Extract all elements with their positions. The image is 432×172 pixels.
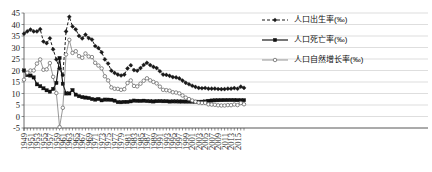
data-point — [129, 100, 132, 103]
x-axis: 1949195119531955195719591961196319651967… — [19, 128, 428, 150]
plot-series — [22, 15, 246, 129]
y-tick-label: 5 — [16, 100, 20, 110]
data-point — [74, 49, 78, 53]
series-line — [24, 58, 244, 102]
data-point — [145, 99, 148, 102]
data-point — [184, 100, 187, 103]
y-tick-label: 45 — [12, 8, 21, 18]
data-point — [207, 99, 210, 102]
data-point — [116, 100, 119, 103]
data-point — [55, 91, 59, 95]
y-tick-label: 10 — [12, 89, 21, 99]
data-point — [164, 73, 168, 77]
data-point — [64, 92, 67, 95]
data-point — [203, 86, 207, 90]
y-tick-label: 20 — [12, 66, 21, 76]
data-point — [32, 76, 35, 79]
data-point — [126, 100, 129, 103]
data-point — [48, 61, 52, 65]
y-tick-label: 25 — [12, 54, 21, 64]
data-point — [68, 92, 71, 95]
data-point — [242, 103, 246, 107]
data-point — [51, 47, 55, 51]
data-point — [100, 99, 103, 102]
data-point — [29, 74, 32, 77]
data-point — [142, 99, 145, 102]
data-point — [123, 87, 127, 91]
data-point — [106, 79, 110, 83]
data-point — [81, 95, 84, 98]
data-point — [148, 100, 151, 103]
data-point — [103, 98, 106, 101]
data-point — [113, 99, 116, 102]
data-point — [165, 100, 168, 103]
data-point — [84, 52, 88, 56]
data-point — [236, 103, 240, 107]
data-point — [242, 98, 245, 101]
data-point — [213, 99, 216, 102]
data-point — [90, 97, 93, 100]
data-point — [80, 56, 84, 60]
legend-label: 人口死亡率(‰) — [294, 34, 348, 44]
data-point — [110, 98, 113, 101]
data-point — [158, 85, 162, 89]
data-point — [236, 98, 239, 101]
data-point — [32, 69, 36, 73]
y-tick-label: 35 — [12, 31, 21, 41]
data-point — [77, 94, 80, 97]
data-point — [25, 71, 29, 75]
legend-item-birth[interactable]: 人口出生率(‰) — [262, 14, 348, 24]
data-point — [71, 88, 74, 91]
data-point — [45, 89, 48, 92]
data-point — [229, 87, 233, 91]
data-point — [22, 69, 25, 72]
data-point — [181, 94, 185, 98]
data-point — [273, 18, 277, 22]
data-point — [100, 67, 104, 71]
data-point — [126, 81, 130, 85]
data-point — [233, 98, 236, 101]
data-point — [145, 77, 149, 81]
data-point — [135, 85, 139, 89]
data-point — [155, 99, 158, 102]
data-point — [142, 79, 146, 83]
data-point — [45, 68, 49, 72]
data-point — [171, 100, 174, 103]
data-point — [216, 99, 219, 102]
data-point — [220, 98, 223, 101]
data-point — [139, 99, 142, 102]
data-point — [229, 98, 232, 101]
y-tick-label: 0 — [16, 112, 20, 122]
data-point — [42, 87, 45, 90]
data-point — [64, 29, 68, 33]
legend-label: 人口出生率(‰) — [294, 14, 348, 24]
data-point — [181, 100, 184, 103]
data-point — [84, 96, 87, 99]
data-point — [174, 100, 177, 103]
data-point — [273, 38, 276, 41]
data-point — [123, 100, 126, 103]
data-point — [132, 99, 135, 102]
data-point — [155, 82, 159, 86]
data-point — [226, 98, 229, 101]
data-point — [22, 78, 26, 82]
data-point — [125, 66, 129, 70]
series-death — [22, 56, 245, 104]
data-point — [139, 82, 143, 86]
y-tick-label: 15 — [12, 77, 21, 87]
population-rate-line-chart: 454035302520151050-5 1949195119531955195… — [0, 0, 432, 172]
legend-item-death[interactable]: 人口死亡率(‰) — [262, 34, 348, 44]
legend-label: 人口自然增长率(‰) — [294, 54, 364, 64]
data-point — [132, 68, 136, 72]
data-point — [67, 15, 71, 19]
chart-container: 454035302520151050-5 1949195119531955195… — [0, 0, 432, 172]
data-point — [161, 100, 164, 103]
data-point — [178, 100, 181, 103]
data-point — [61, 106, 65, 110]
data-point — [68, 38, 72, 42]
data-point — [48, 90, 51, 93]
y-tick-label: 30 — [12, 43, 21, 53]
data-point — [93, 61, 97, 65]
data-point — [168, 100, 171, 103]
series-birth — [22, 15, 246, 92]
